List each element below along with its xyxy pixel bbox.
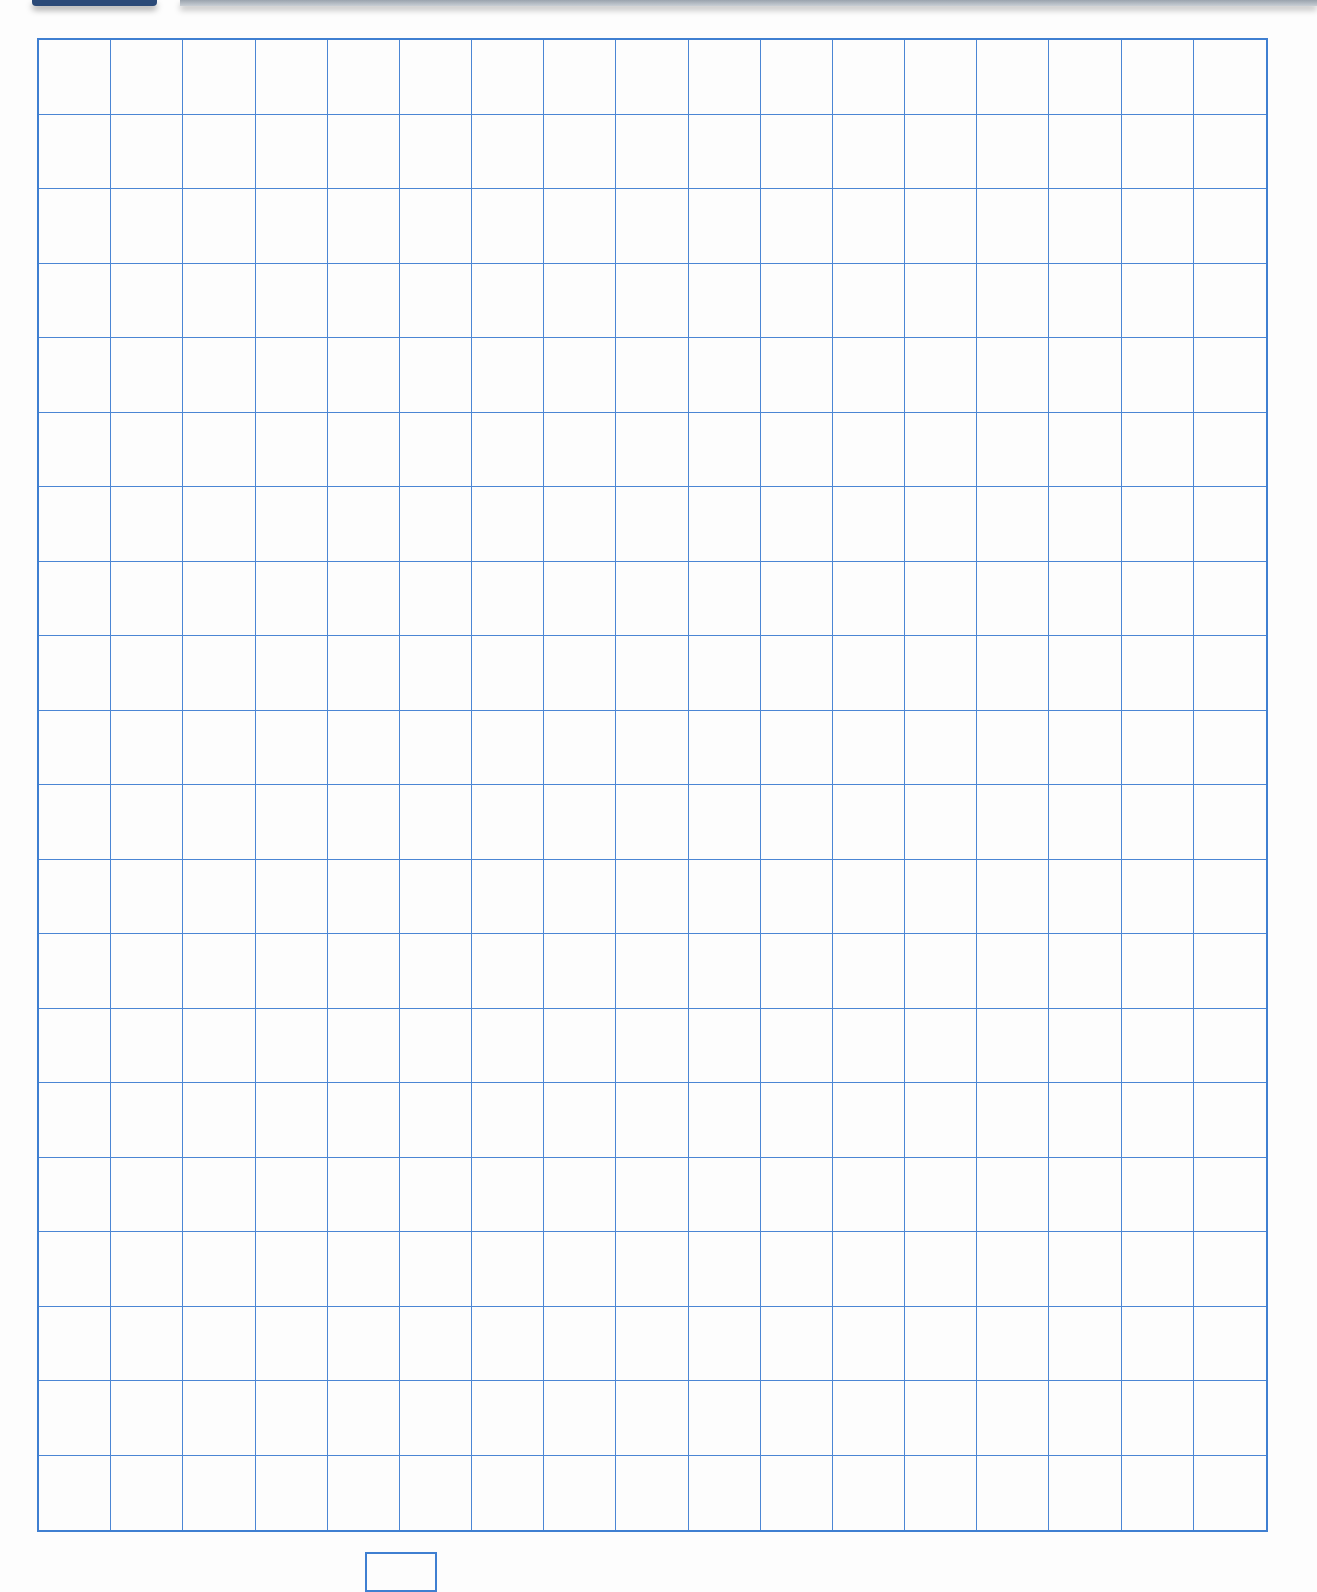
grid-cell <box>761 711 833 786</box>
grid-cell <box>1194 1456 1266 1531</box>
grid-cell <box>256 1009 328 1084</box>
grid-cell <box>1122 711 1194 786</box>
grid-cell <box>328 115 400 190</box>
grid-cell <box>328 1083 400 1158</box>
grid-cell <box>256 40 328 115</box>
grid-cell <box>1194 1083 1266 1158</box>
grid-cell <box>472 785 544 860</box>
grid-cell <box>328 1009 400 1084</box>
grid-cell <box>616 1232 688 1307</box>
grid-cell <box>1194 785 1266 860</box>
grid-cell <box>905 636 977 711</box>
grid-cell <box>1122 115 1194 190</box>
grid-cell <box>328 40 400 115</box>
grid-cell <box>544 562 616 637</box>
grid-cell <box>256 860 328 935</box>
grid-cell <box>472 40 544 115</box>
grid-cell <box>1194 711 1266 786</box>
grid-cell <box>183 115 255 190</box>
grid-cell <box>977 40 1049 115</box>
grid-cell <box>1049 338 1121 413</box>
grid-cell <box>689 1232 761 1307</box>
grid-cell <box>544 40 616 115</box>
grid-cell <box>761 264 833 339</box>
grid-cell <box>1122 562 1194 637</box>
grid-cell <box>183 189 255 264</box>
grid-cell <box>616 636 688 711</box>
grid-cell <box>1049 264 1121 339</box>
grid-cell <box>905 711 977 786</box>
grid-cell <box>183 413 255 488</box>
grid-cell <box>39 1456 111 1531</box>
grid-cell <box>1122 1381 1194 1456</box>
grid-cell <box>183 636 255 711</box>
grid-cell <box>1122 1307 1194 1382</box>
grid-cell <box>256 562 328 637</box>
grid-cell <box>1049 934 1121 1009</box>
grid-cell <box>111 1083 183 1158</box>
grid-cell <box>1194 1158 1266 1233</box>
grid-cell <box>183 1083 255 1158</box>
grid-cell <box>328 562 400 637</box>
grid-cell <box>400 189 472 264</box>
grid-cell <box>977 115 1049 190</box>
grid-cell <box>1194 562 1266 637</box>
grid-cell <box>183 338 255 413</box>
grid-cell <box>1049 1158 1121 1233</box>
grid-cell <box>977 785 1049 860</box>
grid-cell <box>977 189 1049 264</box>
grid-cell <box>111 40 183 115</box>
grid-cell <box>400 338 472 413</box>
grid-cell <box>544 1083 616 1158</box>
grid-cell <box>905 115 977 190</box>
grid-cell <box>472 1232 544 1307</box>
grid-cell <box>39 1307 111 1382</box>
grid-cell <box>472 1009 544 1084</box>
grid-cell <box>1122 636 1194 711</box>
grid-cell <box>256 1158 328 1233</box>
grid-cell <box>111 487 183 562</box>
grid-cell <box>1049 562 1121 637</box>
grid-cell <box>183 1158 255 1233</box>
grid-cell <box>833 711 905 786</box>
grid-cell <box>111 1158 183 1233</box>
answer-box[interactable] <box>365 1552 437 1592</box>
grid-cell <box>689 1381 761 1456</box>
grid-cell <box>833 1232 905 1307</box>
grid-cell <box>833 487 905 562</box>
grid-cell <box>977 338 1049 413</box>
grid-cell <box>544 1232 616 1307</box>
grid-cell <box>1194 413 1266 488</box>
grid-cell <box>400 1158 472 1233</box>
grid-cell <box>39 487 111 562</box>
grid-cell <box>761 785 833 860</box>
grid-cell <box>616 711 688 786</box>
grid-cell <box>39 40 111 115</box>
grid-cell <box>833 338 905 413</box>
grid-cell <box>689 338 761 413</box>
grid-cell <box>111 189 183 264</box>
grid-cell <box>400 711 472 786</box>
graph-paper-grid[interactable] <box>37 38 1268 1532</box>
grid-cell <box>183 1009 255 1084</box>
grid-cell <box>544 1381 616 1456</box>
grid-cell <box>616 115 688 190</box>
grid-cell <box>472 1158 544 1233</box>
grid-cell <box>1194 189 1266 264</box>
grid-cell <box>256 1381 328 1456</box>
grid-cell <box>905 1083 977 1158</box>
grid-cell <box>472 562 544 637</box>
grid-cell <box>1122 264 1194 339</box>
grid-cell <box>833 1307 905 1382</box>
grid-cell <box>111 1009 183 1084</box>
grid-cell <box>400 487 472 562</box>
grid-cell <box>616 934 688 1009</box>
grid-cell <box>544 413 616 488</box>
grid-cell <box>111 711 183 786</box>
grid-cell <box>689 264 761 339</box>
grid-cell <box>977 1307 1049 1382</box>
grid-cell <box>256 487 328 562</box>
grid-cell <box>833 1381 905 1456</box>
grid-cell <box>328 264 400 339</box>
grid-cell <box>905 413 977 488</box>
